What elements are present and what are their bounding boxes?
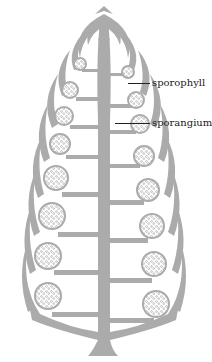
sporangia-left (34, 57, 100, 317)
sporangium-left-6 (38, 202, 100, 237)
sporangium-right-4 (108, 145, 155, 168)
sporangium-right-1 (108, 65, 135, 79)
sporangium-right-7 (108, 251, 167, 283)
sporangium-right-6 (108, 213, 165, 243)
sporophyll-leader-line (128, 83, 150, 84)
sporangium-label: sporangium (152, 117, 212, 129)
strobilus-diagram (0, 0, 212, 362)
sporangium-left-7 (34, 242, 100, 275)
sporangium-left-3 (54, 106, 100, 129)
sporangium-leader-line (115, 123, 150, 124)
sporophyll-label: sporophyll (152, 77, 205, 89)
sporangium-left-2 (61, 81, 100, 101)
sporangium-left-5 (43, 165, 100, 197)
sporangium-left-1 (73, 57, 100, 72)
sporangium-right-5 (108, 178, 160, 205)
sporangium-left-4 (49, 133, 100, 159)
sporangium-right-3 (108, 114, 150, 134)
sporangium-right-2 (108, 91, 145, 109)
sporangium-left-8 (34, 282, 100, 317)
